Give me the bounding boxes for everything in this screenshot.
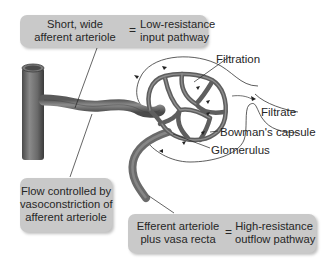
flow-control-callout: Flow controlled by vasoconstriction of a…	[20, 178, 112, 232]
callout-text: Flow controlled by	[20, 185, 112, 198]
callout-text: High-resistance	[235, 220, 313, 233]
callout-text: outflow pathway	[235, 233, 313, 246]
efferent-arteriole-callout: Efferent arteriole plus vasa recta = Hig…	[128, 214, 316, 253]
glomerular-filtration-diagram: Short, wide afferent arteriole = Low-res…	[0, 0, 329, 267]
equals-sign: =	[225, 226, 232, 239]
callout-text: Efferent arteriole	[133, 220, 223, 233]
callout-text: afferent arteriole	[26, 31, 124, 44]
label-glomerulus: Glomerulus	[211, 144, 270, 156]
equals-sign: =	[129, 24, 136, 37]
callout-text: Low-resistance	[140, 18, 202, 31]
label-filtrate: Filtrate	[261, 106, 296, 118]
callout-text: plus vasa recta	[133, 233, 223, 246]
label-bowmans-capsule: Bowman's capsule	[220, 126, 316, 138]
callout-text: input pathway	[140, 31, 202, 44]
label-filtration: Filtration	[216, 53, 260, 65]
interlobular-artery-icon	[22, 64, 44, 160]
afferent-arteriole-callout: Short, wide afferent arteriole = Low-res…	[20, 15, 207, 47]
callout-text: Short, wide	[26, 18, 124, 31]
callout-text: afferent arteriole	[20, 211, 112, 224]
callout-text: vasoconstriction of	[20, 198, 112, 211]
